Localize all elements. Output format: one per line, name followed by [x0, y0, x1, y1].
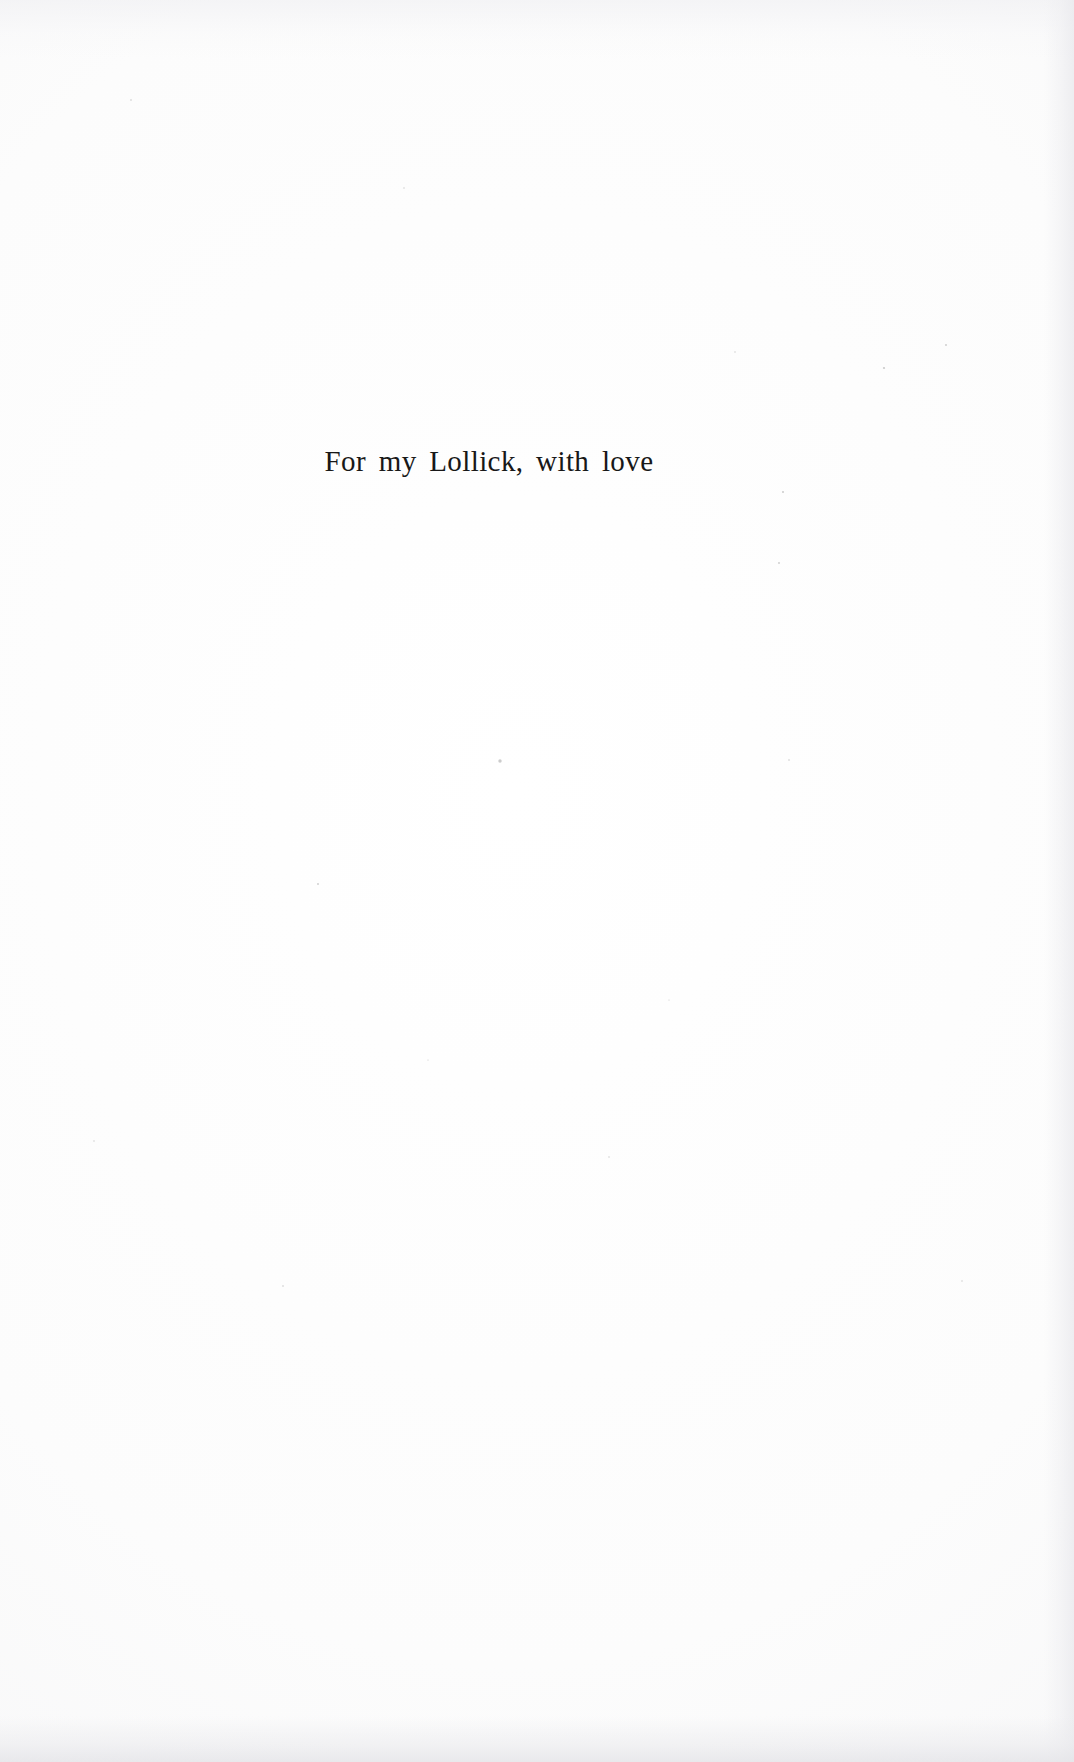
- paper-texture: [0, 0, 1074, 1762]
- scan-edge-top: [0, 0, 1074, 60]
- dedication-block: For my Lollick, with love: [0, 441, 1074, 481]
- book-page: For my Lollick, with love: [0, 0, 1074, 1762]
- scan-edge-bottom: [0, 1716, 1074, 1762]
- dedication-text: For my Lollick, with love: [325, 441, 654, 481]
- scan-speckles: [0, 0, 1074, 1762]
- scan-edge-right: [1044, 0, 1074, 1762]
